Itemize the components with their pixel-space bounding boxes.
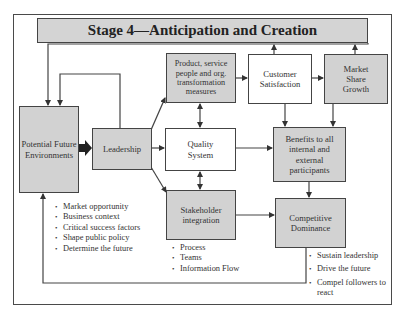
box-product-label: Product, service people and org. transfo… [167,59,235,97]
box-stakeholder-label: Stakeholder integration [171,205,231,226]
thick-arrow-potential-leadership [78,140,92,156]
list-item: Business context [55,212,165,222]
arrow-leadership-product [151,98,165,130]
list-item: Determine the future [55,244,165,254]
box-stakeholder: Stakeholder integration [166,190,236,240]
box-benefits: Benefits to all internal and external pa… [273,127,346,182]
list-item: Sustain leadership [309,251,391,261]
list-item: Compel followers to react [309,278,391,299]
box-market-label: Market Share Growth [337,64,375,95]
list-item: Teams [172,253,272,263]
box-market-share: Market Share Growth [324,54,388,104]
box-quality-label: Quality System [182,139,219,160]
box-leadership: Leadership [92,128,152,170]
arrow-leadership-stakeholder [151,167,166,192]
list-item: Information Flow [172,264,272,274]
list-dominance-outcomes: Sustain leadership Drive the future Comp… [309,251,391,302]
list-item: Shape public policy [55,233,165,243]
box-competitive-label: Competitive Dominance [286,213,335,234]
box-customer-label: Customer Satisfaction [253,69,307,90]
list-item: Market opportunity [55,202,165,212]
box-customer-satisfaction: Customer Satisfaction [248,54,312,104]
box-product-measures: Product, service people and org. transfo… [166,53,236,103]
list-item: Drive the future [309,264,391,274]
box-benefits-label: Benefits to all internal and external pa… [280,134,339,175]
list-environment-factors: Market opportunity Business context Crit… [55,202,165,254]
box-potential-future-label: Potential Future Environments [20,139,78,160]
box-competitive-dominance: Competitive Dominance [275,198,346,248]
box-leadership-label: Leadership [103,144,141,154]
box-potential-future: Potential Future Environments [19,106,79,193]
list-item: Process [172,243,272,253]
list-stakeholder-items: Process Teams Information Flow [172,243,272,274]
list-item: Critical success factors [55,223,165,233]
box-quality-system: Quality System [165,128,236,171]
